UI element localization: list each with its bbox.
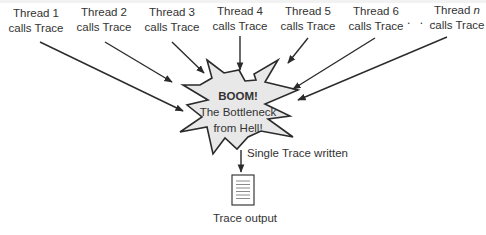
- thread-n-prefix: Thread: [434, 4, 474, 16]
- output-label: Trace output: [213, 212, 277, 224]
- thread-2-label: Thread 2 calls Trace: [77, 5, 132, 35]
- bottleneck-text: BOOM! The Bottleneck from Hell!: [200, 88, 277, 136]
- thread-4-title: Thread 4: [213, 4, 268, 19]
- thread-5-label: Thread 5 calls Trace: [281, 4, 336, 34]
- arrow-thread-3: [172, 42, 204, 73]
- thread-5-caption: calls Trace: [281, 19, 336, 34]
- thread-1-title: Thread 1: [9, 6, 64, 21]
- thread-1-label: Thread 1 calls Trace: [9, 6, 64, 36]
- thread-4-caption: calls Trace: [213, 19, 268, 34]
- arrow-thread-2: [105, 42, 172, 82]
- thread-n-variable: n: [474, 4, 480, 16]
- thread-3-title: Thread 3: [145, 5, 200, 20]
- arrow-thread-6: [293, 38, 375, 89]
- bottleneck-line-3: from Hell!: [200, 120, 277, 136]
- thread-n-caption: calls Trace: [430, 18, 485, 33]
- thread-6-caption: calls Trace: [349, 19, 404, 34]
- thread-6-title: Thread 6: [349, 4, 404, 19]
- thread-n-title: Thread n: [430, 3, 485, 18]
- document-icon: [232, 175, 254, 205]
- thread-6-label: Thread 6 calls Trace: [349, 4, 404, 34]
- bottleneck-title: BOOM!: [218, 90, 258, 102]
- arrow-thread-n: [298, 37, 447, 100]
- thread-n-label: Thread n calls Trace: [430, 3, 485, 33]
- thread-5-title: Thread 5: [281, 4, 336, 19]
- diagram-canvas: Thread 1 calls Trace Thread 2 calls Trac…: [0, 0, 486, 235]
- arrow-thread-5: [288, 38, 308, 63]
- thread-2-caption: calls Trace: [77, 20, 132, 35]
- thread-1-caption: calls Trace: [9, 21, 64, 36]
- thread-3-label: Thread 3 calls Trace: [145, 5, 200, 35]
- thread-3-caption: calls Trace: [145, 20, 200, 35]
- bottleneck-line-2: The Bottleneck: [200, 104, 277, 120]
- thread-2-title: Thread 2: [77, 5, 132, 20]
- edge-label: Single Trace written: [247, 147, 348, 159]
- thread-4-label: Thread 4 calls Trace: [213, 4, 268, 34]
